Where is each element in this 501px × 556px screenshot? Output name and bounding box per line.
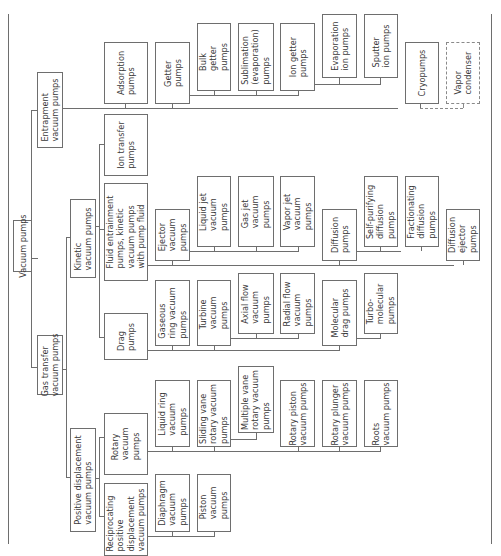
node-label: Sublimation (evaporation) pumps [240,29,271,85]
connector [172,447,173,451]
node-entrapment-vacuum-pumps: Entrapment vacuum pumps [37,72,63,148]
node-label: Turbine vacuum pumps [198,297,229,330]
connector [357,338,381,339]
node-label: Gas jet vacuum pumps [240,195,271,228]
connector [463,261,464,265]
node-label: Ion transfer pumps [116,121,137,169]
connector [380,447,381,451]
node-label: Getter pumps [162,59,183,87]
connector [214,447,215,451]
connector [339,447,340,451]
node-liquid-jet-vacuum-pumps: Liquid jet vacuum pumps [197,176,231,247]
node-roots-vacuum-pumps: Roots vacuum pumps [364,380,398,447]
connector [298,247,299,251]
node-rotary-piston-vacuum-pumps: Rotary piston vacuum pumps [280,380,315,447]
rotary-bus [148,451,381,452]
node-label: Sputter ion pumps [371,25,392,68]
connector [339,261,340,265]
connector [298,91,299,95]
connector [380,334,381,338]
node-sliding-vane-rotary-vacuum-pumps: Sliding vane rotary vacuum pumps [197,380,231,447]
node-label: Entrapment vacuum pumps [40,78,61,141]
node-cryopumps: Cryopumps [405,42,439,104]
fluid-bus [148,265,454,266]
connector [172,261,173,265]
connector [214,91,215,95]
connector [214,247,215,251]
connector [231,338,299,339]
connector [357,251,401,252]
node-self-purifying-diffusion-pumps: Self-purifying diffusion pumps [364,176,398,247]
node-turbomolecular-pumps: Turbo- molecular pumps [364,273,398,334]
connector [256,334,257,338]
node-label: Vapor condenser [453,52,474,95]
node-label: Piston vacuum pumps [198,487,229,520]
left-frame-rule [8,14,9,544]
connector [256,247,257,251]
node-piston-vacuum-pumps: Piston vacuum pumps [197,474,231,532]
node-bulk-getter-pumps: Bulk getter pumps [197,23,231,91]
connector [172,104,173,108]
connector [125,104,126,108]
dashed-connector [420,108,463,109]
node-label: Gas transfer vacuum pumps [40,333,61,396]
node-ion-getter-pumps: Ion getter pumps [280,23,315,91]
node-sputter-ion-pumps: Sputter ion pumps [364,14,398,78]
node-label: Drag pumps [116,323,137,351]
node-liquid-ring-vacuum-pumps: Liquid ring vacuum pumps [155,380,190,447]
connector [421,247,422,251]
node-label: Diffusion ejector pumps [447,217,478,253]
node-label: Roots vacuum pumps [371,382,392,445]
connector [190,95,299,96]
node-positive-displacement-vacuum-pumps: Positive displacement vacuum pumps [70,428,96,532]
node-axial-flow-vacuum-pumps: Axial flow vacuum pumps [238,273,274,334]
node-label: Gaseous ring vacuum pumps [157,287,188,338]
node-label: Reciprocating positive displacement vacu… [105,488,147,551]
node-kinetic-vacuum-pumps: Kinetic vacuum pumps [70,199,96,278]
node-diffusion-ejector-pumps: Diffusion ejector pumps [446,209,480,261]
node-diffusion-pumps: Diffusion pumps [322,209,357,261]
node-label: Evaporation ion pumps [329,21,350,70]
node-label: Molecular drag pumps [329,288,350,337]
node-label: Vacuum pumps [17,214,27,277]
connector [172,346,173,350]
node-vapor-jet-vacuum-pumps: Vapor jet vacuum pumps [280,176,315,247]
node-label: Adsorption pumps [116,51,137,95]
node-reciprocating-positive-displacement-vacuum-pumps: Reciprocating positive displacement vacu… [104,483,148,556]
node-molecular-drag-pumps: Molecular drag pumps [322,280,357,346]
node-getter-pumps: Getter pumps [155,42,190,104]
node-diaphragm-vacuum-pumps: Diaphragm vacuum pumps [155,474,190,532]
node-gas-jet-vacuum-pumps: Gas jet vacuum pumps [238,176,274,247]
node-label: Positive displacement vacuum pumps [73,435,94,524]
node-label: Diaphragm vacuum pumps [157,480,188,526]
connector [214,532,215,536]
entrapment-bus [63,108,398,109]
node-ejector-vacuum-pumps: Ejector vacuum pumps [155,209,190,261]
node-label: Rotary piston vacuum pumps [287,382,308,445]
node-sublimation-pumps: Sublimation (evaporation) pumps [238,23,274,91]
connector [31,110,32,368]
node-turbine-vacuum-pumps: Turbine vacuum pumps [197,280,231,346]
node-label: Cryopumps [417,50,427,97]
node-ion-transfer-pumps: Ion transfer pumps [104,114,148,176]
connector [380,247,381,251]
connector [172,532,173,536]
node-rotary-plunger-vacuum-pumps: Rotary plunger vacuum pumps [322,380,357,447]
node-label: Turbo- molecular pumps [365,283,396,324]
dashed-connector [463,104,464,108]
connector [298,447,299,451]
node-label: Kinetic vacuum pumps [73,207,94,270]
connector [256,91,257,95]
node-label: Fluid entrainment pumps, kinetic vacuum … [105,196,147,269]
node-fractionating-diffusion-pumps: Fractionating diffusion pumps [405,176,439,247]
node-radial-flow-vacuum-pumps: Radial flow vacuum pumps [280,273,315,334]
node-label: Diffusion pumps [329,217,350,253]
connector [339,84,381,85]
node-rotary-vacuum-pumps: Rotary vacuum pumps [104,413,148,475]
node-gas-transfer-vacuum-pumps: Gas transfer vacuum pumps [37,335,63,395]
connector [256,433,257,439]
node-multiple-vane-rotary-vacuum-pumps: Multiple vane rotary vacuum pumps [238,366,274,433]
node-gaseous-ring-vacuum-pumps: Gaseous ring vacuum pumps [155,280,190,346]
connector [148,536,215,537]
connector [32,258,38,259]
